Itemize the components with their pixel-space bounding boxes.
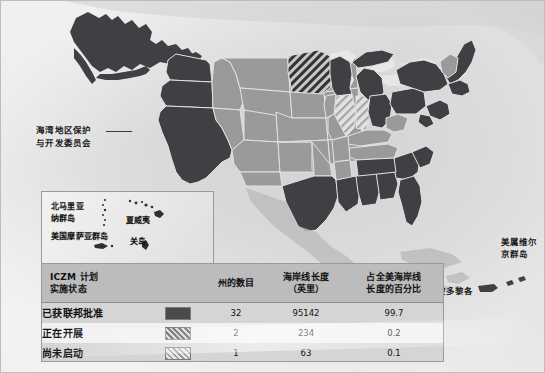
figure-border	[0, 0, 545, 373]
figure-container: 海湾地区保护 与开发委员会 美属维尔 京群岛 波多黎各	[0, 0, 545, 373]
